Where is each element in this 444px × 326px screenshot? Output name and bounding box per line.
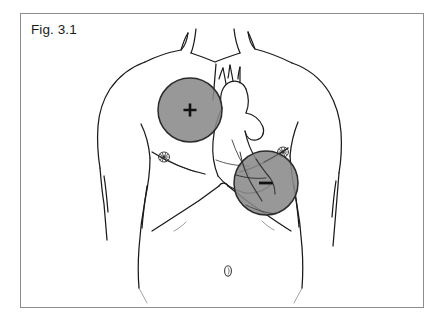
clavicle-right-tip bbox=[181, 33, 188, 50]
brachiocephalic-vessel-1 bbox=[223, 68, 226, 84]
waist-line-left bbox=[294, 288, 302, 303]
pulmonary-artery-lobe bbox=[245, 113, 264, 140]
aortic-arch bbox=[221, 81, 246, 108]
figure-root: Fig. 3.1 bbox=[0, 0, 444, 326]
brachiocephalic-vessel-2b bbox=[228, 65, 230, 78]
flank-right-inner-line bbox=[142, 186, 147, 228]
torso-illustration bbox=[0, 0, 444, 326]
electrode-pads-group bbox=[158, 78, 298, 215]
abdomen-line-right bbox=[174, 222, 186, 231]
brachiocephalic-vessel-1b bbox=[219, 68, 223, 79]
brachiocephalic-vessel-2 bbox=[230, 65, 233, 81]
clavicle-left-tip bbox=[248, 32, 255, 49]
positive-electrode-pad[interactable] bbox=[158, 78, 222, 142]
torso-outline-group bbox=[98, 29, 342, 303]
arm-right-lower-contour bbox=[100, 168, 107, 240]
shoulder-arm-left-contour bbox=[292, 63, 341, 173]
sternal-notch-line bbox=[191, 53, 240, 62]
costal-margin-right bbox=[152, 186, 219, 231]
armpit-right-line bbox=[141, 124, 150, 158]
neck-left-line bbox=[191, 29, 196, 53]
pectoral-fold-right bbox=[152, 152, 205, 174]
shoulder-arm-right-contour bbox=[98, 62, 145, 168]
pulmonary-trunk bbox=[246, 89, 248, 113]
neck-right-line bbox=[234, 29, 240, 53]
abdomen-line-left bbox=[262, 221, 274, 230]
armpit-left-line bbox=[290, 122, 298, 156]
navel-icon bbox=[225, 266, 232, 276]
nipple-hatch-icon-right bbox=[159, 152, 170, 162]
waist-line-right bbox=[139, 288, 147, 303]
flank-right-line bbox=[138, 158, 150, 288]
figure-caption: Fig. 3.1 bbox=[31, 22, 77, 37]
